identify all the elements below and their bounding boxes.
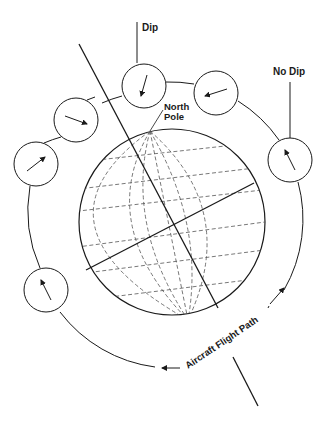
no-dip-label: No Dip [273, 66, 305, 77]
dip-label: Dip [142, 22, 158, 33]
compass-top-right [194, 71, 238, 115]
compass-lower-left [24, 268, 68, 312]
flight-path-arrow-right [270, 288, 284, 304]
north-pole-label: North Pole [164, 101, 192, 122]
earth-globe [70, 129, 280, 320]
compass-left [14, 142, 58, 186]
north-pole-label-line2: Pole [164, 111, 184, 122]
north-pole-leader-line [150, 110, 163, 131]
flight-path-label: Aircraft Flight Path [183, 314, 260, 371]
compass-dip [122, 64, 166, 108]
magnetic-dip-diagram: Dip No Dip North Pole Aircraft Flight Pa… [0, 0, 327, 432]
magnetic-equator-line [86, 183, 254, 270]
compass-no-dip [268, 138, 312, 182]
compass-upper-left [54, 98, 98, 142]
